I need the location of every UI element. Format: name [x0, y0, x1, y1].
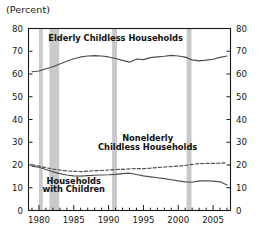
- y-axis-labels-left: 01020304050607080: [12, 24, 23, 216]
- series-line-elderly-childless-households: [32, 55, 227, 71]
- y-tick-label-right: 10: [236, 183, 247, 193]
- x-axis-labels: 198019851990199520002005: [28, 215, 224, 225]
- series-line-nonelderly-childless-households: [32, 163, 227, 172]
- y-tick-label-right: 20: [236, 160, 247, 170]
- y-tick-label-left: 20: [12, 160, 23, 170]
- series-annotations: Elderly Childless HouseholdsNonelderlyCh…: [43, 33, 198, 194]
- y-tick-label-left: 10: [12, 183, 23, 193]
- y-tick-label-left: 60: [12, 69, 23, 79]
- series-annotation: with Children: [43, 184, 106, 194]
- y-tick-label-right: 40: [236, 115, 247, 125]
- y-tick-label-right: 80: [236, 24, 247, 34]
- y-tick-label-left: 30: [12, 137, 23, 147]
- x-tick-label: 1980: [28, 215, 50, 225]
- data-series: [32, 55, 227, 185]
- chart-figure: (Percent) 01020304050607080 010203040506…: [0, 0, 264, 231]
- x-axis-ticks: [32, 205, 227, 211]
- y-tick-label-right: 60: [236, 69, 247, 79]
- x-tick-label: 1985: [63, 215, 85, 225]
- y-tick-label-left: 50: [12, 92, 23, 102]
- series-annotation: Childless Households: [98, 142, 197, 152]
- y-tick-label-right: 70: [236, 46, 247, 56]
- y-axis-ticks-left: [29, 29, 33, 211]
- recession-1980: [39, 29, 43, 211]
- y-axis-labels-right: 01020304050607080: [236, 24, 247, 216]
- y-tick-label-left: 40: [12, 115, 23, 125]
- y-tick-label-left: 80: [12, 24, 23, 34]
- series-annotation: Elderly Childless Households: [48, 33, 183, 43]
- recession-2001: [187, 29, 192, 211]
- y-tick-label-right: 0: [236, 206, 241, 216]
- y-tick-label-left: 0: [18, 206, 23, 216]
- line-chart-plot: 01020304050607080 01020304050607080 1980…: [0, 0, 264, 231]
- x-tick-label: 2000: [167, 215, 189, 225]
- x-tick-label: 1995: [132, 215, 154, 225]
- y-tick-label-right: 30: [236, 137, 247, 147]
- x-tick-label: 2005: [202, 215, 224, 225]
- recession-1990-1991: [112, 29, 117, 211]
- y-tick-label-right: 50: [236, 92, 247, 102]
- y-tick-label-left: 70: [12, 46, 23, 56]
- x-tick-label: 1990: [98, 215, 120, 225]
